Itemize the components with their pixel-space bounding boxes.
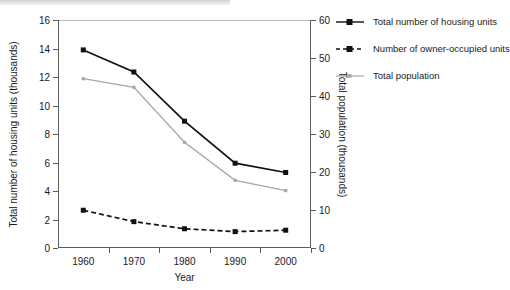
y-axis-right-tick-label: 40 (319, 91, 330, 102)
series-line (83, 50, 285, 173)
x-axis-tick-label: 1960 (72, 256, 94, 267)
series-marker (81, 47, 86, 52)
x-axis-tick (260, 248, 261, 253)
x-axis-tick (109, 248, 110, 253)
y-axis-left-tick-label: 2 (44, 214, 50, 225)
legend-key-dashed-square (336, 44, 364, 54)
series-marker (183, 141, 186, 144)
y-axis-right-tick-label: 30 (319, 129, 330, 140)
series-marker (283, 228, 288, 233)
y-axis-right-tick (311, 20, 316, 21)
y-axis-left-tick-label: 12 (39, 72, 50, 83)
legend-key-gray-line (336, 71, 364, 81)
series-marker (182, 119, 187, 124)
legend-label: Total population (373, 70, 440, 81)
series-marker (131, 219, 136, 224)
scan-artifact-band (0, 0, 230, 5)
y-axis-right-tick-label: 60 (319, 15, 330, 26)
y-axis-left-tick-label: 14 (39, 43, 50, 54)
series-marker (82, 77, 85, 80)
x-axis-tick (311, 248, 312, 253)
series-marker (234, 179, 237, 182)
y-axis-right-tick (311, 172, 316, 173)
legend-item-housing-units: Total number of housing units (336, 16, 490, 27)
x-axis-tick-label: 1980 (173, 256, 195, 267)
series-marker (284, 189, 287, 192)
legend-key-solid-square (336, 17, 364, 27)
legend-label: Number of owner-occupied units (373, 43, 510, 54)
x-axis-tick (210, 248, 211, 253)
series-marker (131, 70, 136, 75)
y-axis-left-tick-label: 6 (44, 157, 50, 168)
y-axis-right-tick-label: 0 (319, 243, 325, 254)
y-axis-left-tick (53, 248, 58, 249)
series-line (83, 79, 285, 191)
y-axis-left-tick-label: 10 (39, 100, 50, 111)
y-axis-right-tick (311, 210, 316, 211)
x-axis-tick-label: 2000 (275, 256, 297, 267)
y-axis-left-tick-label: 8 (44, 129, 50, 140)
y-axis-right-tick-label: 50 (319, 53, 330, 64)
y-axis-left-title-text: Total number of housing units (thousands… (8, 41, 19, 227)
x-axis-tick-label: 1990 (224, 256, 246, 267)
series-marker (283, 170, 288, 175)
chart-legend: Total number of housing units Number of … (336, 16, 490, 97)
legend-item-owner-occupied: Number of owner-occupied units (336, 43, 490, 54)
x-axis-tick-label: 1970 (123, 256, 145, 267)
y-axis-left-tick-label: 0 (44, 243, 50, 254)
x-axis-title: Year (58, 272, 311, 283)
legend-label: Total number of housing units (373, 16, 497, 27)
y-axis-right-tick (311, 96, 316, 97)
y-axis-left-tick-label: 4 (44, 186, 50, 197)
y-axis-right-tick-label: 10 (319, 205, 330, 216)
series-marker (81, 208, 86, 213)
y-axis-right-tick-label: 20 (319, 167, 330, 178)
y-axis-right-tick (311, 58, 316, 59)
series-marker (233, 161, 238, 166)
y-axis-left-tick-label: 16 (39, 15, 50, 26)
series-marker (182, 226, 187, 231)
series-lines (58, 20, 311, 248)
y-axis-left-title: Total number of housing units (thousands… (6, 20, 20, 248)
series-marker (233, 229, 238, 234)
x-axis-tick (159, 248, 160, 253)
y-axis-right-tick (311, 134, 316, 135)
legend-item-total-population: Total population (336, 70, 490, 81)
plot-area: 0246810121416 0102030405060 196019701980… (58, 20, 311, 248)
series-marker (132, 86, 135, 89)
